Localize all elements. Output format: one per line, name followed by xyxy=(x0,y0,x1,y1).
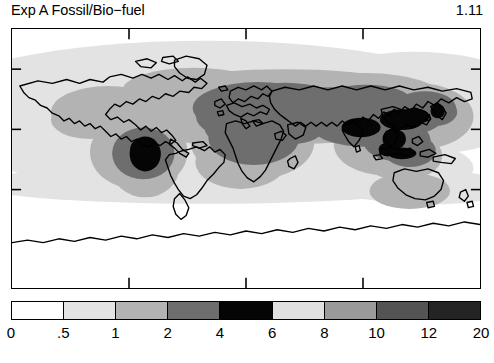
colorbar-segment-1-2 xyxy=(116,302,168,319)
colorbar-segment-8-10 xyxy=(325,302,377,319)
colorbar-segment-2-4 xyxy=(168,302,220,319)
colorbar-label-20: 20 xyxy=(473,324,490,341)
colorbar-label-4: 4 xyxy=(216,324,224,341)
figure-panel: Exp A Fossil/Bio−fuel 1.11 xyxy=(0,0,494,363)
colorbar-strip xyxy=(11,301,481,320)
page-title: Exp A Fossil/Bio−fuel xyxy=(11,2,145,18)
colorbar-segment-10-12 xyxy=(377,302,429,319)
figure-header: Exp A Fossil/Bio−fuel 1.11 xyxy=(0,0,494,26)
colorbar-label-0: 0 xyxy=(7,324,15,341)
map-svg xyxy=(12,29,480,288)
colorbar-segment-0-.5 xyxy=(12,302,64,319)
colorbar-tick-labels: 0.512468101220 xyxy=(0,324,494,348)
colorbar-segment-12-20 xyxy=(429,302,480,319)
colorbar-segment-.5-1 xyxy=(64,302,116,319)
colorbar-segment-6-8 xyxy=(273,302,325,319)
colorbar-label-8: 8 xyxy=(320,324,328,341)
colorbar-label-p5: .5 xyxy=(57,324,70,341)
colorbar-label-2: 2 xyxy=(163,324,171,341)
colorbar-label-6: 6 xyxy=(268,324,276,341)
figure-value-annotation: 1.11 xyxy=(456,2,483,18)
colorbar-label-10: 10 xyxy=(368,324,385,341)
colorbar-segment-4-6 xyxy=(220,302,272,319)
colorbar-label-12: 12 xyxy=(420,324,437,341)
colorbar xyxy=(11,301,481,320)
world-map-plot xyxy=(11,28,481,289)
colorbar-label-1: 1 xyxy=(111,324,119,341)
